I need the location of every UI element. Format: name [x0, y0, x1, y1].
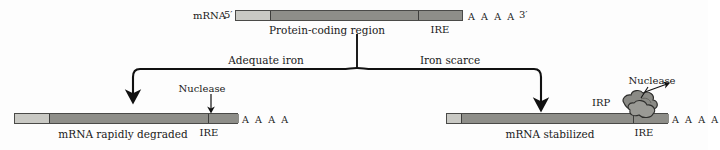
adequate-iron-arrow — [133, 68, 357, 96]
irp-blob — [623, 91, 657, 118]
nuclease-blocked-arrow — [645, 84, 667, 92]
iron-scarce-arrow — [357, 68, 541, 104]
